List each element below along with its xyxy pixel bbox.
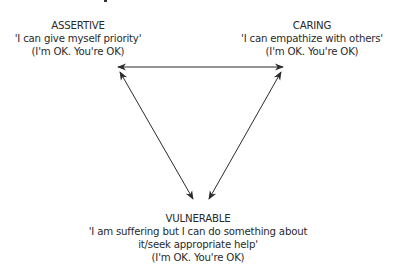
edge-caring-vulnerable [209,72,281,199]
arrow-diagram [0,0,393,273]
edge-assertive-vulnerable [120,72,193,199]
